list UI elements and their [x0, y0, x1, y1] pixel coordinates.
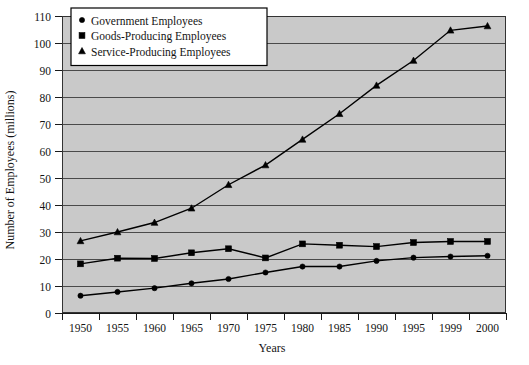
datapoint-1-2000	[485, 253, 490, 258]
x-tick-label-1990: 1990	[365, 322, 388, 334]
y-tick-label-90: 90	[40, 65, 52, 77]
datapoint-1-1975	[263, 270, 268, 275]
datapoint-1-1995	[411, 255, 416, 260]
datapoint-2-1980	[300, 241, 306, 247]
x-tick-label-2000: 2000	[476, 322, 499, 334]
x-tick-label-1970: 1970	[217, 322, 240, 334]
y-tick-label-50: 50	[40, 173, 52, 185]
legend-label-3: Service-Producing Employees	[91, 46, 231, 59]
legend-item-1[interactable]: Government Employees	[79, 15, 203, 28]
y-tick-label-30: 30	[40, 227, 52, 239]
employment-line-chart: 0102030405060708090100110 19501955196019…	[0, 0, 529, 365]
datapoint-1-1955	[115, 289, 120, 294]
datapoint-2-1960	[152, 256, 158, 262]
y-tick-label-110: 110	[34, 11, 51, 23]
legend-item-3[interactable]: Service-Producing Employees	[79, 46, 231, 59]
y-tick-label-10: 10	[40, 281, 52, 293]
x-tick-label-1995: 1995	[402, 322, 425, 334]
datapoint-2-1995	[411, 240, 417, 246]
datapoint-1-1990	[374, 258, 379, 263]
chart-legend[interactable]: Government EmployeesGoods-Producing Empl…	[71, 8, 267, 66]
datapoint-1-1950	[78, 293, 83, 298]
x-tick-label-1985: 1985	[328, 322, 351, 334]
x-axis-title: Years	[259, 341, 286, 355]
datapoint-1-1985	[337, 264, 342, 269]
y-tick-label-60: 60	[40, 146, 52, 158]
y-tick-label-40: 40	[40, 200, 52, 212]
x-tick-label-1960: 1960	[143, 322, 166, 334]
datapoint-2-2000	[485, 239, 491, 245]
y-tick-label-20: 20	[40, 254, 52, 266]
x-tick-label-1980: 1980	[291, 322, 314, 334]
x-tick-label-1999: 1999	[439, 322, 462, 334]
datapoint-1-1999	[448, 254, 453, 259]
datapoint-2-1990	[374, 244, 380, 250]
datapoint-2-1955	[115, 255, 121, 261]
x-tick-label-1950: 1950	[69, 322, 92, 334]
datapoint-2-1970	[226, 246, 232, 252]
datapoint-1-1980	[300, 264, 305, 269]
datapoint-1-1965	[189, 281, 194, 286]
y-tick-label-0: 0	[45, 308, 51, 320]
legend-marker-circle	[79, 17, 84, 22]
datapoint-2-1975	[263, 255, 269, 261]
datapoint-2-1965	[189, 250, 195, 256]
datapoint-1-1960	[152, 286, 157, 291]
x-tick-label-1975: 1975	[254, 322, 277, 334]
chart-container: 0102030405060708090100110 19501955196019…	[0, 0, 529, 365]
datapoint-2-1999	[448, 239, 454, 245]
datapoint-2-1985	[337, 242, 343, 248]
legend-item-2[interactable]: Goods-Producing Employees	[79, 30, 227, 43]
y-tick-label-80: 80	[40, 92, 52, 104]
datapoint-1-1970	[226, 276, 231, 281]
y-tick-label-70: 70	[40, 119, 52, 131]
legend-label-2: Goods-Producing Employees	[91, 30, 227, 43]
y-axis-title: Number of Employees (millions)	[3, 91, 17, 250]
legend-marker-square	[79, 33, 85, 39]
datapoint-2-1950	[78, 261, 84, 267]
x-tick-label-1965: 1965	[180, 322, 203, 334]
y-tick-label-100: 100	[34, 38, 52, 50]
legend-label-1: Government Employees	[91, 15, 203, 28]
x-tick-label-1955: 1955	[106, 322, 129, 334]
